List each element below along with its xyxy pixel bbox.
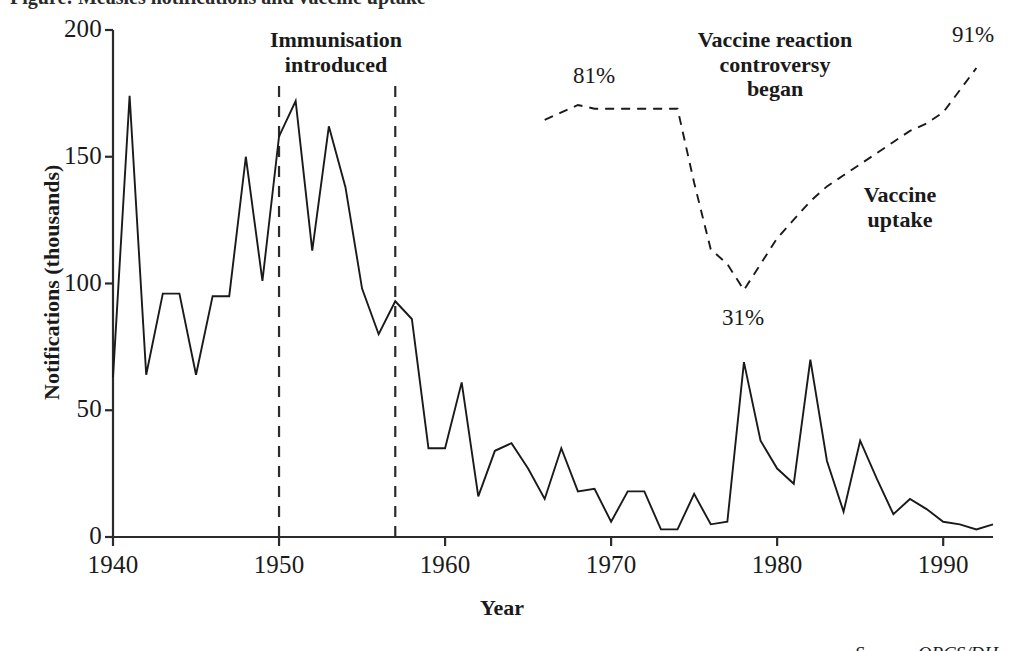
measles-notifications-chart: Figure: Measles notifications and vaccin… [0,0,1009,651]
y-tick-label-150: 150 [40,142,102,170]
x-tick-label-1960: 1960 [405,551,485,579]
y-tick-label-100: 100 [40,269,102,297]
source-note: Source: OPCS/DH Prepared by: CDSC [718,594,998,651]
x-axis-title: Year [480,596,524,621]
x-tick-label-1950: 1950 [239,551,319,579]
source-line: Source: OPCS/DH [718,642,998,651]
pct-31-label: 31% [633,305,853,331]
x-tick-label-1940: 1940 [73,551,153,579]
immunisation-introduced-label: Immunisation introduced [226,28,446,77]
vaccine-uptake-label: Vaccine uptake [790,183,1009,232]
x-tick-label-1970: 1970 [571,551,651,579]
x-tick-label-1980: 1980 [737,551,817,579]
y-tick-label-50: 50 [40,395,102,423]
notifications-line [113,96,993,529]
x-tick-label-1990: 1990 [903,551,983,579]
pct-81-label: 81% [484,63,704,89]
y-tick-label-200: 200 [40,15,102,43]
y-tick-label-0: 0 [40,522,102,550]
pct-91-label: 91% [863,22,1009,48]
